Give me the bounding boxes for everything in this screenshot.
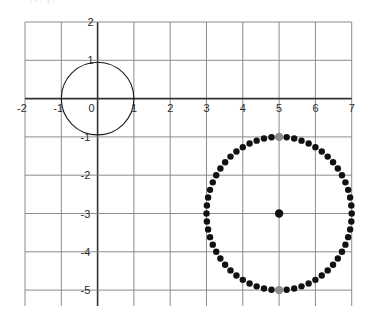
circle-dot — [210, 179, 216, 185]
circle-dot — [217, 165, 223, 171]
circle-dot — [312, 144, 318, 150]
x-tick-label: 5 — [276, 102, 282, 114]
circle-dot — [345, 234, 351, 240]
center-point-dot — [275, 209, 283, 217]
x-tick-label: 6 — [312, 102, 318, 114]
circle-dot — [213, 249, 219, 255]
x-tick-label: 0 — [89, 102, 95, 114]
circle-dot — [217, 255, 223, 261]
circle-dot — [283, 286, 289, 292]
circle-dot — [261, 135, 267, 141]
circle-dot — [342, 179, 348, 185]
circle-dot — [324, 153, 330, 159]
circle-dot — [283, 134, 289, 140]
circle-dot — [339, 172, 345, 178]
circle-dot — [261, 285, 267, 291]
circle-dot — [203, 210, 209, 216]
circle-dot — [205, 194, 211, 200]
circle-dot — [347, 194, 353, 200]
circle-dot — [339, 249, 345, 255]
circle-dot — [222, 262, 228, 268]
circle-dot — [348, 202, 354, 208]
circle-dot — [330, 159, 336, 165]
y-tick-label: -2 — [81, 169, 91, 181]
circle-dot — [291, 135, 297, 141]
circle-dot — [324, 267, 330, 273]
circle-dot — [291, 285, 297, 291]
circle-dot — [205, 226, 211, 232]
circle-dot — [342, 241, 348, 247]
circle-dot — [213, 172, 219, 178]
circle-dot — [246, 140, 252, 146]
y-tick-label: 2 — [88, 16, 94, 28]
circle-dot — [319, 148, 325, 154]
circle-dot — [347, 226, 353, 232]
circle-dot — [335, 165, 341, 171]
circle-dot — [298, 137, 304, 143]
circle-dot — [240, 277, 246, 283]
x-tick-label: 2 — [167, 102, 173, 114]
circle-dot — [268, 286, 274, 292]
circle-dot — [305, 140, 311, 146]
y-tick-label: -5 — [81, 284, 91, 296]
circle-dot — [335, 255, 341, 261]
circle-dot — [330, 262, 336, 268]
circle-dot — [268, 134, 274, 140]
circle-dot — [233, 148, 239, 154]
x-tick-label: 3 — [204, 102, 210, 114]
circle-dot — [319, 272, 325, 278]
circle-dot — [240, 144, 246, 150]
circle-dot — [349, 210, 355, 216]
circle-dot — [298, 283, 304, 289]
circle-dot — [210, 241, 216, 247]
circle-dot — [227, 153, 233, 159]
highlight-bottom-dot — [275, 286, 283, 294]
circle-dot — [246, 280, 252, 286]
circle-dot — [253, 283, 259, 289]
circle-dot — [345, 187, 351, 193]
circle-dot — [233, 272, 239, 278]
y-tick-label: -3 — [81, 208, 91, 220]
x-tick-label: 7 — [349, 102, 355, 114]
circle-dot — [312, 277, 318, 283]
cartesian-plot-svg: -2-10123456721-1-2-3-4-5 — [0, 0, 384, 321]
circle-dot — [305, 280, 311, 286]
y-tick-label: 1 — [88, 54, 94, 66]
circle-dot — [204, 202, 210, 208]
highlight-top-dot — [275, 133, 283, 141]
circle-dot — [207, 234, 213, 240]
circle-dot — [348, 218, 354, 224]
circle-dot — [204, 218, 210, 224]
circle-dot — [227, 267, 233, 273]
y-tick-label: -4 — [81, 246, 91, 258]
x-tick-label: 4 — [240, 102, 246, 114]
x-tick-label: -2 — [17, 102, 27, 114]
circle-dot — [253, 137, 259, 143]
circle-dot — [207, 187, 213, 193]
plot-canvas: (x, y) -2-10123456721-1-2-3-4-5 — [0, 0, 384, 321]
circle-dot — [222, 159, 228, 165]
